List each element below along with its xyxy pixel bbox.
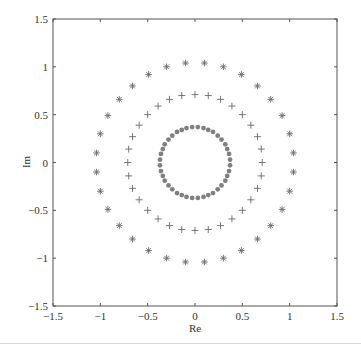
plus-marker xyxy=(258,146,265,153)
dot-marker xyxy=(158,157,163,162)
plus-marker xyxy=(136,122,143,129)
dot-marker xyxy=(160,147,165,152)
star-marker xyxy=(201,60,208,67)
plus-marker xyxy=(247,122,254,129)
star-marker xyxy=(286,131,293,138)
y-tick-label: −0.5 xyxy=(28,204,48,216)
plus-marker xyxy=(178,226,185,233)
dot-marker xyxy=(175,191,180,196)
dot-marker xyxy=(227,169,232,174)
dot-marker xyxy=(223,178,228,183)
dot-marker xyxy=(201,195,206,200)
dot-marker xyxy=(206,193,211,198)
star-marker xyxy=(290,169,297,176)
plus-marker xyxy=(217,96,224,103)
dot-marker xyxy=(225,147,230,152)
y-tick-label: 1.5 xyxy=(34,13,48,25)
y-axis-ticks: −1.5−1−0.500.511.5 xyxy=(28,13,337,312)
plus-marker xyxy=(239,207,246,214)
dot-marker xyxy=(201,126,206,131)
dot-marker xyxy=(215,187,220,192)
dot-marker xyxy=(219,183,224,188)
dot-marker xyxy=(159,169,164,174)
plus-marker xyxy=(228,215,235,222)
dot-marker xyxy=(190,195,195,200)
dot-marker xyxy=(184,126,189,131)
star-marker xyxy=(220,64,227,71)
star-marker xyxy=(105,206,112,213)
dot-marker xyxy=(219,137,224,142)
plus-marker xyxy=(192,227,199,234)
star-marker xyxy=(290,150,297,157)
plus-marker xyxy=(125,172,132,179)
x-axis-label: Re xyxy=(189,322,201,334)
star-marker xyxy=(267,222,274,229)
data-markers xyxy=(93,60,297,266)
star-marker xyxy=(116,222,123,229)
plus-marker xyxy=(125,146,132,153)
y-tick-label: 0 xyxy=(43,157,49,169)
dot-marker xyxy=(195,125,200,130)
star-marker xyxy=(254,236,261,243)
dot-marker xyxy=(190,125,195,130)
plus-marker xyxy=(136,196,143,203)
plus-marker xyxy=(205,92,212,99)
dot-marker xyxy=(179,193,184,198)
x-tick-label: 0.5 xyxy=(235,310,249,322)
plus-marker xyxy=(259,159,266,166)
series-inner-ring xyxy=(158,125,233,201)
dot-marker xyxy=(228,163,233,168)
dot-marker xyxy=(158,163,163,168)
plus-marker xyxy=(239,111,246,118)
dot-marker xyxy=(162,178,167,183)
dot-marker xyxy=(166,137,171,142)
plus-marker xyxy=(166,222,173,229)
plus-marker xyxy=(124,159,131,166)
x-tick-label: −0.5 xyxy=(138,310,158,322)
star-marker xyxy=(286,188,293,195)
x-tick-label: 0 xyxy=(192,310,198,322)
star-marker xyxy=(267,96,274,103)
bottom-divider xyxy=(0,343,361,344)
plot-frame xyxy=(53,19,337,306)
star-marker xyxy=(129,236,136,243)
star-marker xyxy=(182,259,189,266)
star-marker xyxy=(254,83,261,90)
dot-marker xyxy=(175,129,180,134)
star-marker xyxy=(163,255,170,262)
x-tick-label: 1.5 xyxy=(330,310,344,322)
dot-marker xyxy=(184,195,189,200)
plus-marker xyxy=(247,196,254,203)
star-marker xyxy=(97,188,104,195)
y-tick-label: −1.5 xyxy=(28,300,48,312)
plus-marker xyxy=(155,215,162,222)
dot-marker xyxy=(160,173,165,178)
star-marker xyxy=(93,169,100,176)
star-marker xyxy=(93,150,100,157)
dot-marker xyxy=(228,157,233,162)
plus-marker xyxy=(254,133,261,140)
plus-marker xyxy=(258,172,265,179)
plus-marker xyxy=(129,185,136,192)
dot-marker xyxy=(159,151,164,156)
dot-marker xyxy=(195,195,200,200)
plus-marker xyxy=(144,207,151,214)
dot-marker xyxy=(206,128,211,133)
star-marker xyxy=(145,71,152,78)
dot-marker xyxy=(166,183,171,188)
y-tick-label: −1 xyxy=(36,252,48,264)
plus-marker xyxy=(192,91,199,98)
dot-marker xyxy=(215,133,220,138)
plus-marker xyxy=(217,222,224,229)
star-marker xyxy=(163,64,170,71)
plus-marker xyxy=(155,103,162,110)
star-marker xyxy=(279,206,286,213)
star-marker xyxy=(182,60,189,67)
x-tick-label: −1 xyxy=(94,310,106,322)
plus-marker xyxy=(144,111,151,118)
y-tick-label: 1 xyxy=(43,61,49,73)
x-axis-ticks: −1.5−1−0.500.511.5 xyxy=(43,19,344,322)
plus-marker xyxy=(254,185,261,192)
star-marker xyxy=(105,112,112,119)
y-axis-label: Im xyxy=(20,155,32,168)
